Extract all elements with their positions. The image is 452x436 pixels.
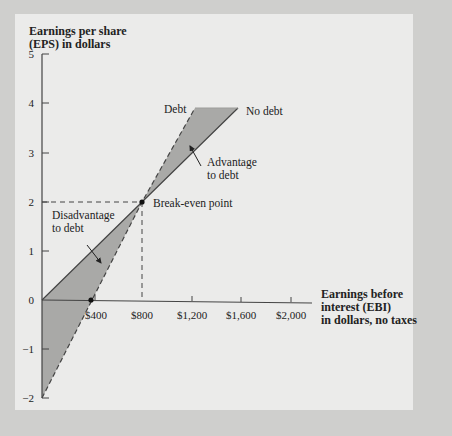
- advantage-label-line-1: Advantage: [207, 156, 257, 169]
- break-even-point-marker: [139, 199, 144, 204]
- break-even-label: Break-even point: [153, 197, 233, 210]
- svg-text:5: 5: [29, 48, 35, 60]
- svg-text:0: 0: [29, 294, 35, 306]
- debt-zero-eps-marker: [88, 297, 93, 302]
- y-axis-title-line-2: (EPS) in dollars: [29, 37, 111, 51]
- svg-text:Earnings before: Earnings before: [321, 287, 404, 301]
- y-axis-title-line-1: Earnings per share: [29, 24, 127, 38]
- svg-text:$400: $400: [85, 309, 108, 321]
- svg-text:4: 4: [29, 97, 35, 109]
- advantage-label-line-2: to debt: [207, 169, 239, 181]
- x-axis-title: Earnings before interest (EBI) in dollar…: [321, 287, 417, 327]
- x-tick-labels: $400 $800 $1,200 $1,600 $2,000: [85, 309, 307, 321]
- svg-text:−2: −2: [22, 392, 34, 404]
- svg-text:in dollars, no taxes: in dollars, no taxes: [321, 313, 417, 327]
- svg-text:$1,200: $1,200: [177, 309, 208, 321]
- svg-text:−1: −1: [22, 343, 34, 355]
- svg-text:$800: $800: [131, 309, 154, 321]
- svg-text:interest (EBI): interest (EBI): [321, 300, 391, 314]
- no-debt-line-label: No debt: [246, 105, 284, 117]
- svg-text:$2,000: $2,000: [276, 309, 307, 321]
- disadvantage-label-line-1: Disadvantage: [52, 209, 115, 222]
- debt-line-label: Debt: [164, 103, 187, 115]
- svg-text:2: 2: [29, 196, 35, 208]
- svg-text:1: 1: [29, 245, 35, 257]
- eps-ebi-chart: Earnings per share (EPS) in dollars 5 4 …: [0, 0, 452, 436]
- svg-text:3: 3: [29, 147, 35, 159]
- svg-text:$1,600: $1,600: [226, 309, 257, 321]
- y-tick-labels: 5 4 3 2 1 0 −1 −2: [22, 48, 34, 404]
- disadvantage-label-line-2: to debt: [52, 222, 84, 234]
